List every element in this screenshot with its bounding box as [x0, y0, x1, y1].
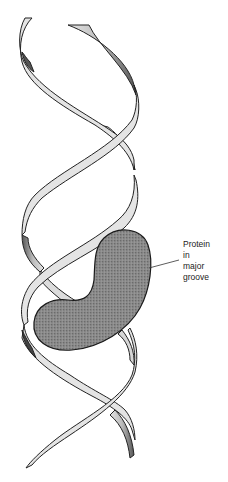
label-line-1: Protein: [183, 239, 210, 250]
label-line-3: major: [183, 261, 210, 272]
protein-label: Protein in major groove: [183, 239, 210, 283]
label-leader-line: [149, 260, 179, 268]
label-line-4: groove: [183, 272, 210, 283]
dna-protein-diagram: Protein in major groove: [0, 0, 228, 482]
label-line-2: in: [183, 250, 210, 261]
